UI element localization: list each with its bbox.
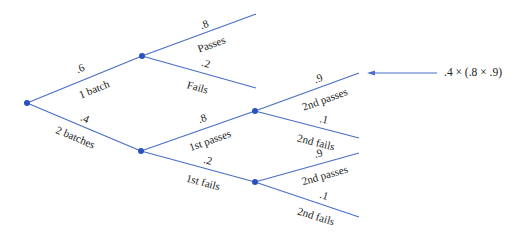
node-2-batches [138,148,144,154]
node-1st-passes [252,108,258,114]
tree-diagram [0,0,529,234]
arrowhead-icon [367,71,375,76]
node-1st-fails [252,179,258,185]
annotation-text: .4 × (.8 × .9) [444,66,502,78]
node-1-batch [139,53,145,59]
node-root [24,100,30,106]
